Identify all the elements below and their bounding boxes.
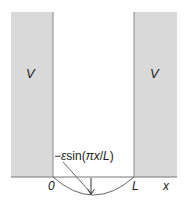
perturbation-label: −εsin(πx/L): [54, 149, 114, 163]
left-barrier-label: V: [26, 66, 36, 81]
infinite-well-perturbation-diagram: V V −εsin(πx/L) 0 L x: [0, 0, 188, 209]
origin-label: 0: [48, 179, 55, 193]
perturbation-curve: [53, 177, 134, 195]
right-barrier: [134, 12, 177, 177]
x-axis-label: x: [162, 179, 170, 193]
well-width-label: L: [132, 179, 139, 193]
left-barrier: [11, 12, 53, 177]
right-barrier-label: V: [150, 66, 160, 81]
